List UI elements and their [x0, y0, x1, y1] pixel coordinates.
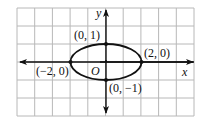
diagram-canvas: y x O (0, 1) (2, 0) (−2, 0) (0, −1) — [0, 0, 206, 120]
point-label-bottom: (0, −1) — [109, 81, 142, 95]
y-axis-label: y — [95, 6, 102, 20]
point-label-right: (2, 0) — [144, 46, 170, 60]
point-label-left: (−2, 0) — [36, 64, 69, 78]
origin-label: O — [91, 64, 100, 78]
point-bottom — [104, 78, 108, 82]
point-label-top: (0, 1) — [74, 28, 100, 42]
x-axis-label: x — [181, 65, 188, 79]
point-top — [104, 42, 108, 46]
point-right — [140, 60, 144, 64]
ellipse-diagram: y x O (0, 1) (2, 0) (−2, 0) (0, −1) — [0, 0, 206, 120]
point-left — [69, 60, 73, 64]
